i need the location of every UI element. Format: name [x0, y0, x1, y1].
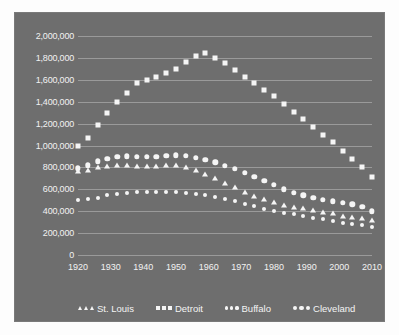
- data-point-st--louis: [212, 176, 218, 181]
- legend-label: Cleveland: [313, 303, 355, 314]
- data-point-detroit: [311, 124, 316, 129]
- data-point-detroit: [281, 101, 286, 106]
- data-point-buffalo: [311, 216, 315, 220]
- data-point-detroit: [213, 55, 218, 60]
- y-axis-tick-label: 2,000,000: [36, 31, 74, 41]
- legend-label: Detroit: [175, 303, 203, 314]
- data-point-detroit: [174, 66, 179, 71]
- data-point-buffalo: [223, 197, 227, 201]
- data-point-st--louis: [114, 163, 120, 168]
- data-point-detroit: [164, 70, 169, 75]
- data-point-detroit: [76, 144, 81, 149]
- data-point-buffalo: [360, 223, 364, 227]
- data-point-buffalo: [341, 221, 345, 225]
- data-point-st--louis: [242, 190, 248, 195]
- data-point-st--louis: [369, 217, 375, 222]
- legend-item-detroit[interactable]: Detroit: [156, 303, 203, 314]
- legend-marker-glyph: [225, 306, 228, 309]
- data-point-buffalo: [154, 190, 158, 194]
- data-point-cleveland: [193, 155, 198, 160]
- legend-marker-circle-icon: [293, 306, 310, 310]
- legend-marker-glyph: [156, 306, 160, 310]
- data-point-cleveland: [105, 156, 110, 161]
- y-axis-tick-label: 1,200,000: [36, 119, 74, 129]
- legend-item-buffalo[interactable]: Buffalo: [225, 303, 271, 314]
- y-axis-tick-label: 600,000: [43, 184, 74, 194]
- data-point-detroit: [154, 74, 159, 79]
- data-point-buffalo: [301, 214, 305, 218]
- data-point-st--louis: [173, 162, 179, 167]
- data-point-detroit: [134, 81, 139, 86]
- data-point-st--louis: [281, 202, 287, 207]
- gridline: [78, 233, 372, 234]
- data-point-cleveland: [154, 154, 159, 159]
- legend-label: Buffalo: [242, 303, 271, 314]
- data-point-cleveland: [173, 152, 178, 157]
- gridline: [78, 80, 372, 81]
- data-point-buffalo: [321, 217, 325, 221]
- data-point-buffalo: [164, 190, 168, 194]
- y-axis-tick-label: 800,000: [43, 162, 74, 172]
- x-axis-tick-label: 1970: [231, 262, 251, 272]
- data-point-cleveland: [134, 154, 139, 159]
- legend-marker-glyph: [306, 306, 310, 310]
- legend-marker-glyph: [293, 306, 297, 310]
- data-point-detroit: [262, 87, 267, 92]
- data-point-cleveland: [124, 154, 129, 159]
- data-point-st--louis: [320, 209, 326, 214]
- data-point-buffalo: [135, 190, 139, 194]
- data-point-st--louis: [291, 204, 297, 209]
- x-axis-labels: 1920193019401950196019701980199020002010: [78, 262, 372, 278]
- gridline: [78, 102, 372, 103]
- data-point-buffalo: [174, 190, 178, 194]
- data-point-st--louis: [222, 180, 228, 185]
- legend-marker-square-icon: [156, 306, 172, 310]
- data-point-cleveland: [183, 153, 188, 158]
- y-axis-tick-label: 1,800,000: [36, 53, 74, 63]
- data-point-st--louis: [359, 216, 365, 221]
- x-axis-tick-label: 1930: [101, 262, 121, 272]
- data-point-buffalo: [145, 190, 149, 194]
- gridline: [78, 189, 372, 190]
- x-axis-tick-label: 1980: [264, 262, 284, 272]
- data-point-buffalo: [350, 222, 354, 226]
- legend-marker-glyph: [168, 306, 172, 310]
- data-point-st--louis: [330, 211, 336, 216]
- x-axis-tick-label: 1920: [68, 262, 88, 272]
- legend-marker-glyph: [90, 306, 94, 310]
- gridline: [78, 146, 372, 147]
- data-point-detroit: [340, 148, 345, 153]
- data-point-detroit: [85, 136, 90, 141]
- data-point-detroit: [330, 140, 335, 145]
- data-point-cleveland: [291, 190, 296, 195]
- chart-legend: St. LouisDetroitBuffaloCleveland: [78, 300, 378, 316]
- data-point-detroit: [291, 109, 296, 114]
- data-point-detroit: [242, 74, 247, 79]
- data-point-detroit: [125, 90, 130, 95]
- gridline: [78, 36, 372, 37]
- x-axis-tick-label: 1950: [166, 262, 186, 272]
- data-point-buffalo: [86, 197, 90, 201]
- data-point-buffalo: [272, 209, 276, 213]
- data-point-buffalo: [331, 219, 335, 223]
- data-point-st--louis: [300, 206, 306, 211]
- data-point-cleveland: [144, 154, 149, 159]
- data-point-buffalo: [105, 193, 109, 197]
- data-point-cleveland: [261, 178, 266, 183]
- legend-marker-glyph: [235, 306, 238, 309]
- legend-item-st--louis[interactable]: St. Louis: [78, 303, 134, 314]
- data-point-buffalo: [233, 199, 237, 203]
- legend-marker-dot-icon: [225, 306, 239, 309]
- data-point-detroit: [232, 67, 237, 72]
- data-point-buffalo: [243, 202, 247, 206]
- data-point-st--louis: [202, 171, 208, 176]
- gridline: [78, 58, 372, 59]
- legend-marker-glyph: [162, 306, 166, 310]
- data-point-detroit: [350, 156, 355, 161]
- x-axis-tick-label: 1990: [297, 262, 317, 272]
- y-axis-tick-label: 1,400,000: [36, 97, 74, 107]
- legend-marker-glyph: [230, 306, 233, 309]
- legend-item-cleveland[interactable]: Cleveland: [293, 303, 355, 314]
- data-point-st--louis: [232, 185, 238, 190]
- data-point-cleveland: [242, 170, 247, 175]
